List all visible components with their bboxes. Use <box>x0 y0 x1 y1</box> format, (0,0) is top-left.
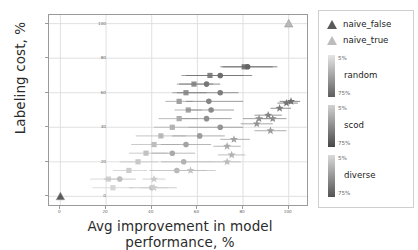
data-point-square <box>143 151 148 156</box>
data-point-square <box>151 142 156 147</box>
legend-panel: naive_falsenaive_true5%75%random5%75%sco… <box>318 10 414 208</box>
x-tick-label: 100 <box>276 209 300 214</box>
y-tick-label: 0 <box>66 193 106 198</box>
y-axis-label: Labeling cost, % <box>12 0 28 168</box>
data-point-star <box>223 158 231 166</box>
x-tick-label: 60 <box>184 209 208 214</box>
data-point-square <box>177 116 182 121</box>
x-tick-label: 0 <box>47 209 71 214</box>
triangle-icon <box>327 20 337 29</box>
data-point-star <box>150 175 158 183</box>
colorbar-diverse <box>328 155 335 197</box>
plot-canvas <box>49 15 307 205</box>
colorbar-random <box>328 55 335 97</box>
colorbar-title-scod: scod <box>344 120 364 130</box>
data-point-star <box>287 97 295 105</box>
data-point-circle <box>208 107 214 113</box>
data-point-circle <box>117 176 123 182</box>
data-point-square <box>135 159 140 164</box>
data-point-square <box>158 133 163 138</box>
x-tick-label: 20 <box>93 209 117 214</box>
y-tick-mark <box>45 195 48 196</box>
y-tick-label: 80 <box>66 55 106 60</box>
y-axis-label-wrap: Labeling cost, % <box>0 0 40 200</box>
colorbar-min-label: 5% <box>338 155 347 161</box>
data-point-star <box>230 135 238 143</box>
colorbar-max-label: 75% <box>338 90 350 96</box>
data-point-circle <box>197 133 203 139</box>
y-tick-mark <box>45 57 48 58</box>
colorbar-scod <box>328 105 335 147</box>
colorbar-max-label: 75% <box>338 140 350 146</box>
data-point-star <box>253 120 261 128</box>
data-point-circle <box>181 159 187 165</box>
data-point-circle <box>204 81 210 87</box>
y-tick-label: 100 <box>66 21 106 26</box>
x-axis-label: Avg improvement in model performance, % <box>40 218 320 250</box>
data-point-square <box>126 168 131 173</box>
x-tick-label: 40 <box>139 209 163 214</box>
colorbar-min-label: 5% <box>338 105 347 111</box>
legend-entry-label: naive_true <box>343 35 388 45</box>
data-point-circle <box>245 64 251 70</box>
legend-entry-naive_true[interactable]: naive_true <box>327 35 388 45</box>
colorbar-max-label: 75% <box>338 190 350 196</box>
x-tick-label: 80 <box>230 209 254 214</box>
data-point-star <box>276 104 284 112</box>
plot-area <box>48 14 308 206</box>
legend-entry-label: naive_false <box>343 19 391 29</box>
y-tick-label: 20 <box>66 159 106 164</box>
y-tick-mark <box>45 23 48 24</box>
data-point-star <box>187 166 195 174</box>
data-point-circle <box>217 124 223 130</box>
colorbar-min-label: 5% <box>338 55 347 61</box>
data-point-star <box>228 151 236 159</box>
y-tick-mark <box>45 126 48 127</box>
data-point-circle <box>217 73 223 79</box>
data-point-square <box>177 99 182 104</box>
legend-entry-naive_false[interactable]: naive_false <box>327 19 391 29</box>
colorbar-title-diverse: diverse <box>344 170 376 180</box>
data-point-circle <box>183 142 189 148</box>
y-tick-mark <box>45 92 48 93</box>
data-point-star <box>223 142 231 150</box>
data-point-circle <box>204 116 210 122</box>
data-point-circle <box>206 99 212 105</box>
triangle-icon <box>327 36 337 45</box>
y-tick-label: 60 <box>66 90 106 95</box>
y-tick-label: 40 <box>66 124 106 129</box>
y-tick-mark <box>45 161 48 162</box>
data-point-square <box>110 185 115 190</box>
data-point-square <box>170 125 175 130</box>
data-point-circle <box>217 90 223 96</box>
colorbar-title-random: random <box>344 70 377 80</box>
data-point-circle <box>169 150 175 156</box>
